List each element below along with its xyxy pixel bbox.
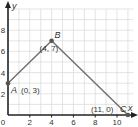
x-tick-label: 8: [93, 118, 98, 127]
segments: [8, 41, 128, 115]
point-coord-B: (4, 7): [40, 44, 59, 53]
segment-BC: [52, 41, 128, 115]
y-tick-label: 8: [1, 26, 6, 35]
point-coord-A: (0, 3): [21, 86, 40, 95]
y-axis-label: y: [11, 1, 17, 11]
x-tick-label: 6: [71, 118, 76, 127]
x-tick-label: 2: [28, 118, 33, 127]
point-coord-C: (11, 0): [91, 105, 114, 114]
coordinate-plot: xy 24681024680 A(0, 3)B(4, 7)C(11, 0): [0, 0, 138, 127]
origin-label: 0: [1, 118, 6, 127]
point-A: [6, 81, 11, 86]
y-tick-label: 2: [1, 90, 6, 99]
x-axis-label: x: [127, 103, 133, 113]
y-tick-label: 6: [1, 47, 6, 56]
point-name-B: B: [55, 30, 61, 40]
point-name-A: A: [10, 85, 17, 95]
grid: [8, 9, 133, 115]
y-tick-label: 4: [1, 69, 6, 78]
x-tick-label: 10: [113, 118, 122, 127]
y-axis-arrow-icon: [5, 1, 11, 8]
point-name-C: C: [120, 104, 127, 114]
point-B: [49, 39, 54, 44]
x-tick-label: 4: [49, 118, 54, 127]
